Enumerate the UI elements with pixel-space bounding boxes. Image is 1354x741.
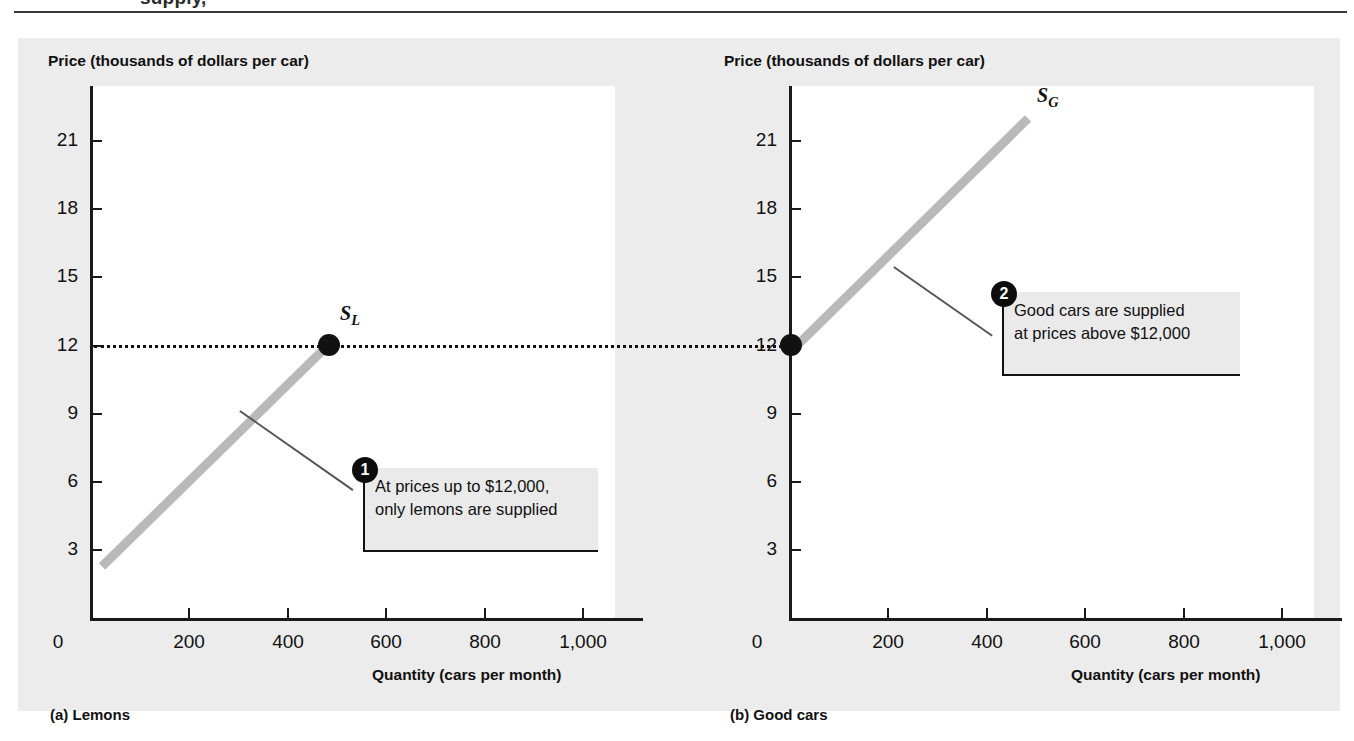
y-tick-15 [91,276,102,278]
figure-panel: Price (thousands of dollars per car) 3 6… [18,38,1340,711]
y-tick-21 [790,140,801,142]
x-tick-600 [385,608,387,619]
panel-lemons: Price (thousands of dollars per car) 3 6… [18,38,698,711]
y-tick-3 [790,549,801,551]
y-tick-label-12: 12 [38,334,78,356]
callout-2-box: Good cars are supplied at prices above $… [1002,292,1240,376]
x-tick-1000 [582,608,584,619]
x-axis-line [789,618,1342,621]
x-tick-label-800: 800 [1168,631,1200,653]
y-tick-label-15: 15 [38,265,78,287]
x-tick-400 [986,608,988,619]
callout-2-badge: 2 [991,281,1017,307]
x-tick-label-800: 800 [469,631,501,653]
x-tick-800 [1183,608,1185,619]
y-tick-label-15: 15 [737,265,777,287]
callout-2-text: Good cars are supplied at prices above $… [1014,299,1226,345]
x-tick-label-600: 600 [1069,631,1101,653]
y-tick-6 [790,481,801,483]
x-tick-200 [887,608,889,619]
y-tick-label-3: 3 [38,538,78,560]
x-axis-line [90,618,643,621]
y-tick-9 [790,413,801,415]
x-tick-label-400: 400 [272,631,304,653]
x-tick-label-0: 0 [752,631,763,653]
header-divider [14,11,1347,13]
y-tick-18 [91,208,102,210]
x-tick-label-200: 200 [173,631,205,653]
panel-caption-lemons: (a) Lemons [50,706,130,723]
panel-good-cars: Price (thousands of dollars per car) 3 6… [698,38,1340,711]
y-tick-label-9: 9 [737,402,777,424]
y-tick-6 [91,481,102,483]
x-tick-label-1000: 1,000 [559,631,607,653]
y-tick-3 [91,549,102,551]
x-tick-label-0: 0 [53,631,64,653]
panel-caption-good-cars: (b) Good cars [730,706,828,723]
y-tick-9 [91,413,102,415]
x-tick-1000 [1281,608,1283,619]
y-tick-label-21: 21 [737,129,777,151]
x-tick-200 [188,608,190,619]
callout-1-box: At prices up to $12,000, only lemons are… [363,468,598,552]
x-tick-400 [287,608,289,619]
price-12-reference-line [94,345,794,348]
y-axis-title: Price (thousands of dollars per car) [48,52,309,70]
supply-curve-lemons-label: SL [340,302,360,329]
x-axis-title: Quantity (cars per month) [372,666,561,684]
figure-page: supply, Price (thousands of dollars per … [0,0,1354,741]
y-tick-label-6: 6 [737,470,777,492]
clipped-title-fragment: supply, [140,0,207,9]
y-tick-label-9: 9 [38,402,78,424]
x-tick-label-200: 200 [872,631,904,653]
x-tick-label-400: 400 [971,631,1003,653]
y-tick-label-6: 6 [38,470,78,492]
y-tick-15 [790,276,801,278]
callout-1-text: At prices up to $12,000, only lemons are… [375,475,584,521]
supply-curve-good-label: SG [1037,84,1059,111]
y-tick-label-18: 18 [737,197,777,219]
x-tick-600 [1084,608,1086,619]
callout-1-badge: 1 [352,457,378,483]
y-tick-label-21: 21 [38,129,78,151]
y-axis-line [90,86,93,620]
y-tick-21 [91,140,102,142]
x-axis-title: Quantity (cars per month) [1071,666,1260,684]
y-tick-label-3: 3 [737,538,777,560]
y-tick-label-18: 18 [38,197,78,219]
y-axis-title: Price (thousands of dollars per car) [724,52,985,70]
x-tick-label-1000: 1,000 [1258,631,1306,653]
x-tick-800 [484,608,486,619]
x-tick-label-600: 600 [370,631,402,653]
y-tick-18 [790,208,801,210]
